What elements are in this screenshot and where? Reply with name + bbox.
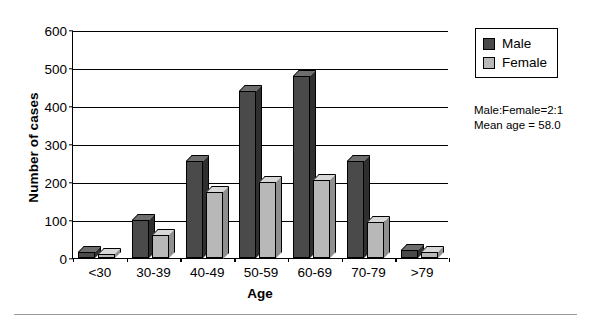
x-tick-mark <box>449 258 450 262</box>
bar-face <box>367 222 384 258</box>
bar-group <box>288 31 342 258</box>
bar-face <box>132 220 149 258</box>
x-tick-label: 50-59 <box>244 265 279 280</box>
x-tick-label: 40-49 <box>190 265 225 280</box>
bottom-divider <box>14 314 577 315</box>
bar-face <box>401 250 418 258</box>
bar-face <box>239 91 256 258</box>
y-tick-label: 300 <box>7 138 67 153</box>
y-tick-label: 600 <box>7 24 67 39</box>
bar-face <box>421 252 438 258</box>
bar-side-face <box>330 174 336 258</box>
bar-female->79 <box>421 252 438 258</box>
bar-male-60-69 <box>293 76 310 258</box>
x-tick-mark <box>127 258 128 262</box>
plot-inner: 0100200300400500600<3030-3940-4950-5960-… <box>73 31 448 258</box>
x-tick-label: >79 <box>411 265 434 280</box>
y-tick-label: 400 <box>7 100 67 115</box>
legend-item-male: Male <box>483 34 547 53</box>
bar-male-70-79 <box>347 161 364 258</box>
bar-male->79 <box>401 250 418 258</box>
bar-group <box>73 31 127 258</box>
bar-side-face <box>384 216 390 258</box>
x-tick-label: <30 <box>88 265 111 280</box>
bar-face <box>313 180 330 258</box>
bar-male-<30 <box>78 252 95 258</box>
bar-face <box>206 192 223 259</box>
x-tick-mark <box>180 258 181 262</box>
x-tick-mark <box>234 258 235 262</box>
bar-side-face <box>276 176 282 258</box>
chart-annotations: Male:Female=2:1 Mean age = 58.0 <box>474 103 563 132</box>
legend-swatch-male <box>483 38 495 50</box>
x-tick-label: 30-39 <box>136 265 171 280</box>
bar-face <box>152 235 169 258</box>
bar-side-face <box>223 186 229 259</box>
y-tick-label: 100 <box>7 214 67 229</box>
bar-female-30-39 <box>152 235 169 258</box>
legend-label-female: Female <box>502 55 547 70</box>
bar-male-30-39 <box>132 220 149 258</box>
y-tick-label: 200 <box>7 176 67 191</box>
bar-face <box>186 161 203 258</box>
bar-face <box>98 254 115 258</box>
bar-group <box>234 31 288 258</box>
chart-legend: Male Female <box>475 28 558 78</box>
x-axis-title: Age <box>72 286 448 301</box>
x-tick-mark <box>395 258 396 262</box>
bar-face <box>259 182 276 258</box>
bar-side-face <box>169 229 175 258</box>
y-tick-label: 500 <box>7 62 67 77</box>
bar-chart-figure: Number of cases 0100200300400500600<3030… <box>0 0 591 324</box>
plot-area: 0100200300400500600<3030-3940-4950-5960-… <box>72 31 448 259</box>
bar-group <box>342 31 396 258</box>
x-tick-label: 60-69 <box>297 265 332 280</box>
bar-male-50-59 <box>239 91 256 258</box>
x-tick-mark <box>288 258 289 262</box>
bar-face <box>293 76 310 258</box>
legend-swatch-female <box>483 57 495 69</box>
bar-group <box>395 31 449 258</box>
bar-face <box>78 252 95 258</box>
x-tick-mark <box>342 258 343 262</box>
bar-face <box>347 161 364 258</box>
x-tick-label: 70-79 <box>351 265 386 280</box>
x-tick-mark <box>73 258 74 262</box>
bar-group <box>127 31 181 258</box>
legend-item-female: Female <box>483 53 547 72</box>
bar-female-<30 <box>98 254 115 258</box>
bar-group <box>180 31 234 258</box>
annotation-sex-ratio: Male:Female=2:1 <box>474 103 563 118</box>
legend-label-male: Male <box>502 36 531 51</box>
annotation-mean-age: Mean age = 58.0 <box>474 118 563 133</box>
bar-female-40-49 <box>206 192 223 259</box>
bar-female-50-59 <box>259 182 276 258</box>
bar-female-60-69 <box>313 180 330 258</box>
bar-male-40-49 <box>186 161 203 258</box>
y-tick-label: 0 <box>7 252 67 267</box>
bar-female-70-79 <box>367 222 384 258</box>
